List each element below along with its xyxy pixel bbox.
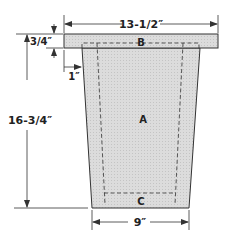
part-diagram: 13-1/2″ 3/4″ 1″ 16-3/4″ 9″ A B C	[0, 0, 230, 248]
part-a-body	[82, 48, 200, 208]
part-b-label: B	[137, 37, 145, 48]
part-a-label: A	[139, 114, 147, 125]
bottom-width-label: 9″	[134, 216, 147, 229]
top-width-label: 13-1/2″	[119, 18, 163, 31]
inset-dimension	[64, 50, 81, 72]
inset-label: 1″	[68, 71, 80, 82]
top-thickness-label: 3/4″	[30, 36, 53, 47]
part-c-label: C	[137, 196, 144, 207]
height-label: 16-3/4″	[8, 114, 52, 127]
